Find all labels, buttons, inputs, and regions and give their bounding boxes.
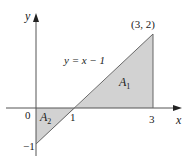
point-label-3-2: (3, 2)	[131, 18, 155, 31]
diagram-figure: y x 0 1 3 −1 (3, 2) y = x − 1 A1 A2	[0, 0, 188, 160]
y-axis-arrow-icon	[33, 13, 39, 22]
tick-label-x-1: 1	[70, 111, 76, 123]
origin-label: 0	[25, 109, 31, 121]
line-equation-label: y = x − 1	[63, 54, 105, 66]
tick-label-x-3: 3	[149, 113, 155, 125]
y-axis-label: y	[24, 9, 31, 23]
x-axis-label: x	[175, 113, 182, 127]
tick-label-y-minus-1: −1	[23, 140, 35, 152]
x-axis-arrow-icon	[173, 105, 182, 111]
